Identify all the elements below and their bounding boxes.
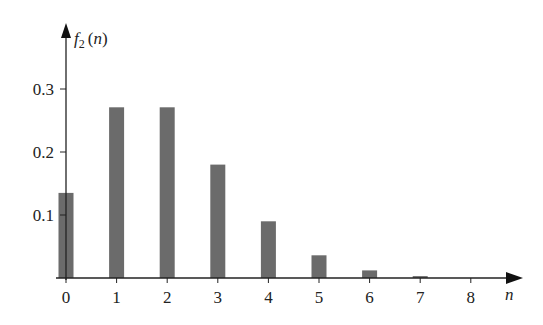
x-ticks-group: 012345678 xyxy=(62,278,475,307)
bar-n-1 xyxy=(109,107,124,278)
x-tick-label: 0 xyxy=(62,288,71,307)
x-tick-label: 2 xyxy=(163,288,172,307)
x-axis-arrow-icon xyxy=(506,272,523,284)
bar-n-5 xyxy=(312,255,327,278)
x-tick-label: 1 xyxy=(112,288,121,307)
bar-chart: 0.10.20.3 012345678 f2(n) n xyxy=(0,0,543,325)
x-axis-label: n xyxy=(505,285,514,304)
y-tick-label: 0.2 xyxy=(33,143,54,162)
x-tick-label: 6 xyxy=(365,288,374,307)
x-tick-label: 7 xyxy=(416,288,425,307)
y-tick-label: 0.3 xyxy=(33,80,54,99)
x-tick-label: 8 xyxy=(467,288,476,307)
bar-n-3 xyxy=(210,165,225,278)
x-tick-label: 5 xyxy=(315,288,324,307)
axes-group xyxy=(56,23,523,284)
y-tick-label: 0.1 xyxy=(33,206,54,225)
bar-n-2 xyxy=(160,107,175,278)
x-tick-label: 4 xyxy=(264,288,273,307)
y-axis-arrow-icon xyxy=(61,23,71,38)
y-axis-label: f2(n) xyxy=(74,29,108,51)
bar-n-6 xyxy=(362,270,377,278)
bars-group xyxy=(59,107,428,278)
x-tick-label: 3 xyxy=(214,288,223,307)
bar-n-4 xyxy=(261,221,276,278)
